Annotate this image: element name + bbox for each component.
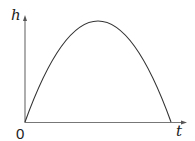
x-axis-label: t (176, 124, 182, 139)
origin-label: 0 (16, 126, 24, 141)
chart-canvas (0, 0, 195, 141)
y-axis-arrow-icon (23, 15, 27, 21)
y-axis-label: h (11, 8, 21, 23)
height-curve (25, 21, 171, 122)
